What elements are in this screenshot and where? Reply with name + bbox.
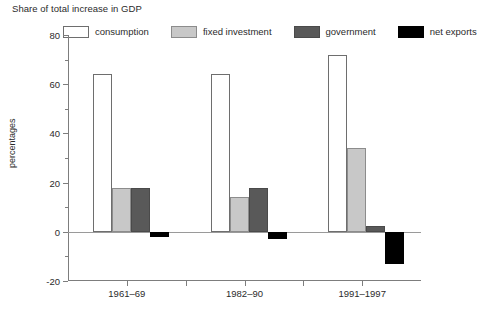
- y-tick-mark: [63, 84, 68, 85]
- bar-fixed-investment-2: [347, 148, 366, 232]
- y-axis-title: percentages: [7, 118, 17, 168]
- y-minor-tick-mark: [65, 109, 68, 110]
- y-tick-mark: [63, 232, 68, 233]
- bar-consumption-2: [328, 55, 347, 232]
- y-tick-mark: [63, 35, 68, 36]
- y-minor-tick-mark: [65, 256, 68, 257]
- y-tick-label: 60: [49, 79, 60, 90]
- x-tick-mark: [127, 281, 128, 286]
- y-tick-mark: [63, 133, 68, 134]
- x-tick-mark: [245, 281, 246, 286]
- y-tick-label: 20: [49, 177, 60, 188]
- x-separator-tick: [303, 281, 304, 286]
- bar-fixed-investment-0: [112, 188, 131, 232]
- x-tick-label: 1961–69: [108, 288, 145, 299]
- y-tick-label: 0: [55, 226, 60, 237]
- y-minor-tick-mark: [65, 60, 68, 61]
- bar-government-2: [366, 226, 385, 232]
- x-separator-tick: [186, 281, 187, 286]
- y-minor-tick-mark: [65, 207, 68, 208]
- x-tick-label: 1991–1997: [338, 288, 386, 299]
- y-minor-tick-mark: [65, 158, 68, 159]
- bar-government-0: [131, 188, 150, 232]
- y-tick-label: -20: [46, 276, 60, 287]
- bar-fixed-investment-1: [230, 197, 249, 231]
- legend-label-net-exports: net exports: [430, 26, 477, 38]
- y-tick-label: 40: [49, 128, 60, 139]
- zero-baseline: [68, 232, 421, 233]
- bar-consumption-0: [93, 74, 112, 231]
- x-tick-mark: [362, 281, 363, 286]
- y-tick-mark: [63, 281, 68, 282]
- bar-net-exports-2: [385, 232, 404, 264]
- y-tick-mark: [63, 183, 68, 184]
- bar-consumption-1: [211, 74, 230, 231]
- bar-net-exports-0: [150, 232, 169, 237]
- chart-title: Share of total increase in GDP: [12, 3, 142, 14]
- bar-government-1: [249, 188, 268, 232]
- y-axis-line: [68, 35, 69, 281]
- y-tick-label: 80: [49, 30, 60, 41]
- bar-net-exports-1: [268, 232, 287, 239]
- x-tick-label: 1982–90: [226, 288, 263, 299]
- plot-area: -200204060801961–691982–901991–1997: [68, 35, 421, 281]
